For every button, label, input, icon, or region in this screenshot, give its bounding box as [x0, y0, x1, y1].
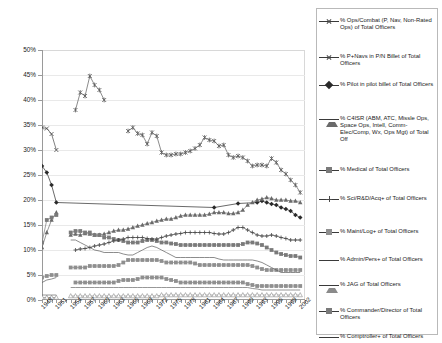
- data-point: [45, 230, 49, 234]
- series-6: [42, 258, 302, 279]
- data-point: [73, 108, 77, 113]
- data-point: [236, 226, 240, 230]
- legend: % Ops/Combat (P, Nav, Non-Rated Ops) of …: [316, 8, 438, 335]
- y-tick-label: 25%: [2, 172, 36, 178]
- data-point: [174, 279, 178, 283]
- data-point: [217, 263, 221, 267]
- data-point: [231, 155, 235, 160]
- data-point: [241, 155, 245, 160]
- legend-item[interactable]: % Admin/Pers+ of Total Officers: [318, 256, 438, 265]
- data-point: [231, 281, 235, 285]
- data-point: [42, 245, 44, 249]
- legend-marker-star-icon: [318, 53, 340, 62]
- legend-marker-glyph: [326, 282, 338, 293]
- data-point: [236, 201, 241, 206]
- data-point: [107, 241, 111, 245]
- data-point: [83, 247, 87, 251]
- data-point: [164, 234, 168, 238]
- data-point: [42, 276, 44, 280]
- data-point: [212, 232, 216, 236]
- data-point: [222, 263, 226, 267]
- data-point: [265, 195, 269, 199]
- legend-label: % JAG of Total Officers: [340, 281, 404, 288]
- legend-item[interactable]: % Pilot in pilot billet of Total Officer…: [318, 81, 438, 90]
- legend-item[interactable]: % C4ISR (ABM, ATC, Missle Ops, Space Ops…: [318, 115, 438, 143]
- data-point: [298, 215, 303, 220]
- data-point: [241, 281, 245, 285]
- data-point: [270, 156, 274, 161]
- data-point: [83, 94, 87, 99]
- data-point: [227, 263, 231, 267]
- data-point: [121, 278, 125, 282]
- data-point: [226, 153, 230, 158]
- data-point: [255, 242, 259, 246]
- legend-item[interactable]: % Medical of Total Officers: [318, 166, 438, 175]
- legend-label: % Admin/Pers+ of Total Officers: [340, 256, 426, 263]
- data-point: [251, 264, 255, 268]
- data-point: [102, 264, 106, 268]
- data-point: [160, 276, 164, 280]
- data-point: [227, 281, 231, 285]
- data-point: [145, 142, 149, 147]
- data-point: [78, 266, 82, 270]
- data-point: [251, 241, 255, 245]
- data-point: [231, 228, 235, 232]
- series-line: [42, 166, 300, 218]
- legend-marker-glyph: [326, 196, 332, 202]
- data-point: [164, 261, 168, 265]
- legend-label: % Commander/Director of Total Officers: [340, 307, 438, 321]
- data-point: [88, 281, 92, 285]
- series-0: [42, 126, 58, 153]
- data-point: [217, 232, 221, 236]
- data-point: [136, 241, 140, 245]
- data-point: [265, 234, 269, 238]
- legend-item[interactable]: % P+Navs in P/N Billet of Total Officers: [318, 53, 438, 67]
- data-point: [207, 231, 211, 235]
- data-point: [260, 243, 264, 247]
- data-point: [131, 125, 135, 130]
- data-point: [289, 178, 293, 183]
- legend-item[interactable]: % Maint/Log+ of Total Officers: [318, 228, 438, 237]
- legend-item[interactable]: % Commander/Director of Total Officers: [318, 307, 438, 321]
- data-point: [155, 258, 159, 262]
- data-point: [141, 258, 145, 262]
- legend-label: % P+Navs in P/N Billet of Total Officers: [340, 53, 438, 67]
- data-point: [174, 242, 178, 246]
- legend-label: % Pilot in pilot billet of Total Officer…: [340, 81, 436, 88]
- data-point: [251, 283, 255, 287]
- data-point: [279, 268, 283, 272]
- data-point: [284, 284, 288, 288]
- legend-item[interactable]: % Ops/Combat (P, Nav, Non-Rated Ops) of …: [318, 17, 438, 31]
- series-line: [42, 128, 56, 151]
- data-point: [198, 263, 202, 267]
- legend-marker-glyph: [326, 167, 332, 173]
- data-point: [193, 243, 197, 247]
- data-point: [160, 236, 164, 240]
- data-point: [78, 247, 82, 251]
- data-point: [255, 284, 259, 288]
- legend-item[interactable]: % Comptroller+ of Total Officers: [318, 333, 438, 342]
- data-point: [269, 202, 274, 207]
- legend-marker-diamond-icon: [318, 81, 340, 90]
- legend-label: % Ops/Combat (P, Nav, Non-Rated Ops) of …: [340, 17, 438, 31]
- data-point: [155, 134, 159, 139]
- data-point: [160, 241, 164, 245]
- data-point: [131, 278, 135, 282]
- y-tick-label: 50%: [2, 47, 36, 53]
- data-point: [93, 83, 97, 88]
- data-point: [50, 216, 54, 220]
- data-point: [231, 243, 235, 247]
- series-line: [42, 215, 56, 243]
- data-point: [294, 284, 298, 288]
- data-point: [126, 278, 130, 282]
- legend-marker-tri-icon: [318, 115, 340, 124]
- data-point: [293, 238, 297, 242]
- data-point: [236, 154, 240, 159]
- data-point: [169, 278, 173, 282]
- legend-item[interactable]: % Sci/R&D/Acq+ of Total Officers: [318, 195, 438, 204]
- y-tick-label: 35%: [2, 122, 36, 128]
- data-point: [88, 231, 92, 235]
- data-point: [260, 284, 264, 288]
- legend-item[interactable]: % JAG of Total Officers: [318, 281, 438, 290]
- chart-area: 50%45%40%35%30%25%20%15%10%5%0% 19481951…: [0, 0, 312, 343]
